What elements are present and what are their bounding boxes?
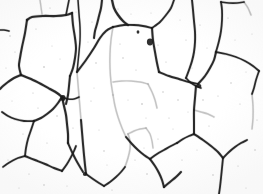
micrograph-figure [0,0,263,194]
grain-boundary-network-canvas [0,0,263,194]
